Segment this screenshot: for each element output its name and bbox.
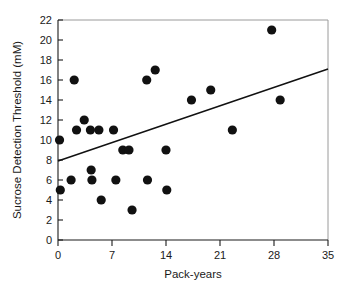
data-point (187, 95, 196, 104)
trend-line-group (58, 69, 328, 161)
x-tick-label: 14 (160, 249, 172, 261)
x-axis-title: Pack-years (164, 268, 222, 280)
x-axis-tick-labels: 0 7 14 21 28 35 (55, 249, 334, 261)
data-point (72, 125, 81, 134)
data-point (70, 75, 79, 84)
data-point (161, 145, 170, 154)
data-point (124, 145, 133, 154)
x-tick-label: 7 (109, 249, 115, 261)
data-point (127, 205, 136, 214)
data-point (142, 75, 151, 84)
data-points-group (55, 25, 285, 214)
y-tick-label: 2 (46, 214, 52, 226)
scatter-plot-figure: 22 20 18 16 14 12 10 8 6 4 2 0 Sucrose D… (0, 0, 354, 285)
y-tick-label: 8 (46, 154, 52, 166)
x-tick-label: 0 (55, 249, 61, 261)
data-point (143, 175, 152, 184)
y-tick-label: 10 (40, 134, 52, 146)
y-tick-label: 12 (40, 114, 52, 126)
x-tick-label: 21 (214, 249, 226, 261)
y-axis-tick-labels: 22 20 18 16 14 12 10 8 6 4 2 0 (40, 14, 52, 246)
y-tick-label: 16 (40, 74, 52, 86)
x-tick-label: 28 (268, 249, 280, 261)
x-tick-label: 35 (322, 249, 334, 261)
y-axis: 22 20 18 16 14 12 10 8 6 4 2 0 Sucrose D… (11, 14, 63, 246)
data-point (67, 175, 76, 184)
data-point (87, 165, 96, 174)
data-point (162, 185, 171, 194)
data-point (267, 25, 276, 34)
data-point (228, 125, 237, 134)
y-tick-label: 6 (46, 174, 52, 186)
data-point (56, 185, 65, 194)
data-point (109, 125, 118, 134)
data-point (80, 115, 89, 124)
data-point (97, 195, 106, 204)
y-tick-label: 4 (46, 194, 52, 206)
x-axis: 0 7 14 21 28 35 Pack-years (55, 240, 334, 280)
y-tick-label: 22 (40, 14, 52, 26)
data-point (94, 125, 103, 134)
data-point (151, 65, 160, 74)
data-point (111, 175, 120, 184)
chart-canvas: 22 20 18 16 14 12 10 8 6 4 2 0 Sucrose D… (0, 0, 354, 285)
regression-line (58, 69, 328, 161)
y-tick-label: 14 (40, 94, 52, 106)
data-point (276, 95, 285, 104)
y-axis-title: Sucrose Detection Threshold (mM) (11, 41, 23, 219)
y-tick-label: 18 (40, 54, 52, 66)
x-axis-ticks (58, 240, 328, 246)
data-point (86, 125, 95, 134)
data-point (87, 175, 96, 184)
y-tick-label: 0 (46, 234, 52, 246)
y-axis-ticks (58, 20, 63, 240)
data-point (55, 135, 64, 144)
data-point (206, 85, 215, 94)
y-tick-label: 20 (40, 34, 52, 46)
